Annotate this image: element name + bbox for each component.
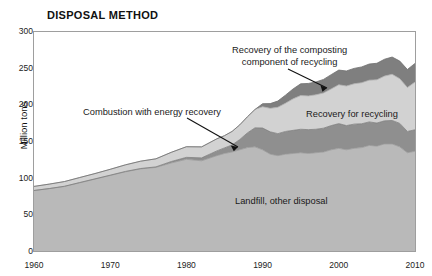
plot-area bbox=[0, 0, 432, 276]
stacked-areas bbox=[34, 57, 415, 251]
annotation-recycling: Recovery for recycling bbox=[306, 109, 398, 121]
annotation-combustion: Combustion with energy recovery bbox=[83, 107, 221, 119]
disposal-method-chart: DISPOSAL METHOD Million tons 05010015020… bbox=[0, 0, 432, 276]
annotation-composting: Recovery of the composting component of … bbox=[232, 45, 347, 68]
area-landfill bbox=[34, 144, 415, 251]
annotation-composting-line1: Recovery of the composting bbox=[232, 45, 347, 57]
annotation-landfill-line1: Landfill, other disposal bbox=[235, 196, 328, 208]
annotation-combustion-line1: Combustion with energy recovery bbox=[83, 107, 221, 119]
annotation-recycling-line1: Recovery for recycling bbox=[306, 109, 398, 121]
annotation-composting-line2: component of recycling bbox=[232, 57, 347, 69]
annotation-landfill: Landfill, other disposal bbox=[235, 196, 328, 208]
